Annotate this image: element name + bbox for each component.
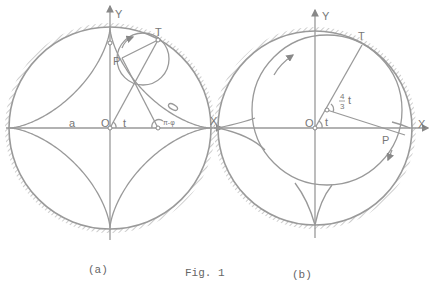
label-y-a: Y bbox=[115, 8, 123, 20]
point-y-cusp-a bbox=[108, 41, 112, 45]
label-angle2-num-b: 4 bbox=[340, 92, 345, 101]
angle-t-arc-b bbox=[319, 121, 322, 128]
label-radius-a: a bbox=[69, 117, 76, 129]
origin-point-b bbox=[313, 126, 317, 130]
figure-canvas: Y X O T P a t π-φ Y X bbox=[0, 0, 430, 290]
point-x-intercept-a bbox=[156, 126, 160, 130]
line-OT-b bbox=[315, 45, 362, 128]
label-angle-phi-a: π-φ bbox=[163, 119, 175, 127]
angle-t-arc-a bbox=[113, 122, 116, 128]
label-origin-a: O bbox=[101, 117, 110, 129]
cusp-curve-bottom-right-b bbox=[315, 185, 332, 225]
label-P-b: P bbox=[382, 134, 389, 146]
label-T-b: T bbox=[358, 30, 365, 42]
label-angle2-var-b: t bbox=[348, 94, 351, 106]
cusp-curve-bottom-left-b bbox=[295, 183, 315, 225]
cusp-curve-left-upper-b bbox=[218, 118, 255, 128]
caption-a: (a) bbox=[88, 264, 108, 276]
phi-marker-a bbox=[167, 102, 178, 111]
tangent-line-a bbox=[122, 58, 158, 128]
label-x-b: X bbox=[418, 118, 426, 130]
rolling-circle-a bbox=[117, 33, 169, 85]
figure-caption: Fig. 1 bbox=[185, 267, 225, 279]
caption-b: (b) bbox=[292, 269, 312, 281]
label-P-a: P bbox=[113, 55, 120, 67]
rotation-arrow-b bbox=[274, 55, 293, 75]
label-origin-b: O bbox=[305, 117, 314, 129]
panel-a: Y X O T P a t π-φ bbox=[6, 6, 222, 240]
label-y-b: Y bbox=[322, 10, 330, 22]
point-T-a bbox=[156, 38, 160, 42]
panel-b: Y X O T P t 4 3 t bbox=[214, 10, 428, 238]
label-angle2-den-b: 3 bbox=[340, 102, 345, 111]
center-point-b bbox=[325, 108, 329, 112]
label-angle-t-a: t bbox=[123, 117, 126, 129]
label-angle-t-b: t bbox=[325, 116, 328, 128]
label-T-a: T bbox=[155, 26, 162, 38]
